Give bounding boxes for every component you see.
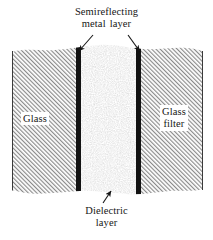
label-bottom-line1: Dielectric <box>85 205 127 216</box>
label-top-line1: Semireflecting <box>75 6 138 17</box>
layer-metal-right <box>136 40 141 200</box>
label-glass-text: Glass <box>23 113 47 124</box>
interference-filter-diagram: Semireflecting metallayer Dielectric lay… <box>0 0 213 240</box>
label-top-word-layer: layer <box>110 18 132 29</box>
label-dielectric-layer: Dielectric layer <box>0 205 213 229</box>
label-glass-filter-line1: Glass <box>162 106 186 117</box>
label-top-word-metal: metal <box>82 18 106 29</box>
label-bottom-line2: layer <box>0 217 213 228</box>
label-glass: Glass <box>21 112 49 125</box>
label-top-line2: metallayer <box>0 18 213 29</box>
label-glass-filter-line2: filter <box>162 118 186 130</box>
layer-metal-left <box>76 40 81 200</box>
label-glass-filter: Glass filter <box>160 105 188 131</box>
layer-dielectric-stipple <box>81 40 136 200</box>
label-semireflecting-metal-layer: Semireflecting metallayer <box>0 6 213 30</box>
